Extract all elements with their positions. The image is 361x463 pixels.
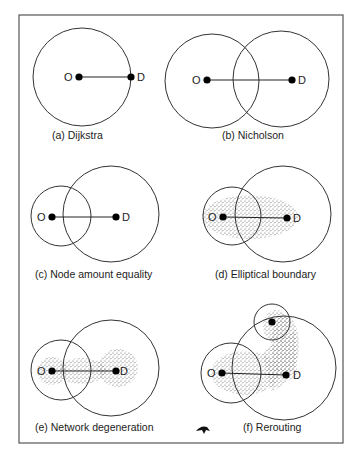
origin-label: O [64, 71, 73, 83]
panel-caption: (d) Elliptical boundary [215, 268, 317, 280]
destination-label: D [122, 211, 130, 223]
destination-label: D [120, 365, 128, 377]
origin-label: O [192, 74, 201, 86]
origin-node [218, 369, 225, 376]
panel-f-rerouting: O D (f) Rerouting [196, 304, 336, 434]
panel-caption: (f) Rerouting [243, 421, 302, 433]
panel-e-network-degeneration: O D (e) Network degeneration [31, 320, 159, 433]
destination-circle [233, 31, 329, 127]
panel-caption: (a) Dijkstra [52, 129, 103, 141]
panel-a-dijkstra: O D (a) Dijkstra [33, 28, 145, 141]
origin-label: O [207, 367, 216, 379]
panel-caption: (e) Network degeneration [35, 421, 154, 433]
panel-caption: (b) Nicholson [222, 129, 284, 141]
panel-c-node-amount-equality: O D (c) Node amount equality [31, 166, 159, 280]
origin-node [219, 213, 226, 220]
destination-node [283, 214, 290, 221]
search-area-stipple [211, 310, 299, 395]
destination-label: D [293, 369, 301, 381]
origin-node [48, 367, 55, 374]
panel-caption: (c) Node amount equality [35, 268, 153, 280]
destination-node [288, 76, 295, 83]
scan-artifact-icon [196, 427, 210, 435]
panel-b-nicholson: O D (b) Nicholson [165, 31, 329, 141]
destination-node [112, 367, 119, 374]
figure-canvas: O D (a) Dijkstra O D (b) Nicholson O D (… [0, 0, 361, 463]
origin-label: O [37, 211, 46, 223]
destination-node [282, 371, 289, 378]
destination-label: D [298, 74, 306, 86]
origin-node [48, 213, 55, 220]
destination-label: D [293, 212, 301, 224]
destination-label: D [137, 71, 145, 83]
origin-label: O [37, 365, 46, 377]
destination-circle [63, 166, 159, 262]
panel-d-elliptical-boundary: O D (d) Elliptical boundary [202, 166, 331, 280]
destination-node [112, 213, 119, 220]
origin-node [75, 73, 82, 80]
reroute-node [268, 318, 275, 325]
origin-label: O [208, 211, 217, 223]
origin-node [203, 76, 210, 83]
destination-node [127, 73, 134, 80]
